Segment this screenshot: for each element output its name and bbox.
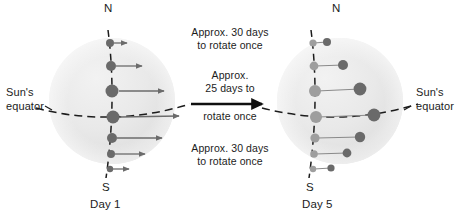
sunspot-day5-mid-south (343, 149, 352, 158)
sunspot-high-north (106, 39, 114, 47)
right-equator-label-line2: equator (416, 100, 454, 113)
origin-marker-low-north (309, 85, 321, 97)
left-day-label: Day 1 (90, 198, 121, 210)
sunspot-day5-high-south (327, 164, 334, 171)
right-north-pole-label: N (332, 2, 340, 14)
right-south-pole-label: S (306, 181, 314, 193)
equator-rotation-note-line1: Approx. (180, 69, 280, 82)
sunspot-mid-north (106, 61, 116, 71)
sunspot-high-south (107, 166, 113, 172)
sunspot-mid-south (107, 150, 115, 158)
origin-marker-equator (310, 111, 322, 123)
left-sun-sphere (49, 38, 175, 164)
right-sun-limb-fade (277, 38, 403, 164)
origin-marker-mid-south (310, 150, 318, 158)
sunspot-day5-equator (368, 109, 381, 122)
sunspot-equator (107, 111, 120, 124)
left-sun-limb-fade (49, 38, 175, 164)
sunspot-day5-low-north (354, 83, 367, 96)
sunspot-low-south (107, 133, 117, 143)
origin-marker-mid-north (310, 62, 319, 71)
left-north-pole-label: N (104, 2, 112, 14)
sunspot-day5-high-north (323, 38, 331, 46)
south-rotation-note-line2: to rotate once (180, 155, 280, 168)
north-rotation-note-line2: to rotate once (180, 39, 280, 52)
origin-marker-high-south (310, 166, 316, 172)
solar-rotation-diagram: N S Day 1 Sun's equator N S Day 5 Sun's … (0, 0, 459, 216)
origin-marker-high-north (309, 39, 316, 46)
sunspot-day5-mid-north (338, 60, 348, 70)
sunspot-day5-low-south (355, 132, 365, 142)
south-rotation-note-line1: Approx. 30 days (180, 142, 280, 155)
left-equator-label-line1: Sun's (6, 86, 34, 99)
sunspot-low-north (106, 85, 119, 98)
left-south-pole-label: S (102, 181, 110, 193)
origin-marker-low-south (310, 133, 319, 142)
right-equator-label-line1: Sun's (416, 86, 444, 99)
north-rotation-note-line1: Approx. 30 days (180, 26, 280, 39)
left-equator-label-line2: equator (6, 100, 44, 113)
equator-rotation-note-line2: 25 days to (180, 82, 280, 95)
right-sun-sphere (277, 38, 403, 164)
equator-rotation-note-line3: rotate once (180, 110, 280, 123)
right-day-label: Day 5 (302, 198, 333, 210)
